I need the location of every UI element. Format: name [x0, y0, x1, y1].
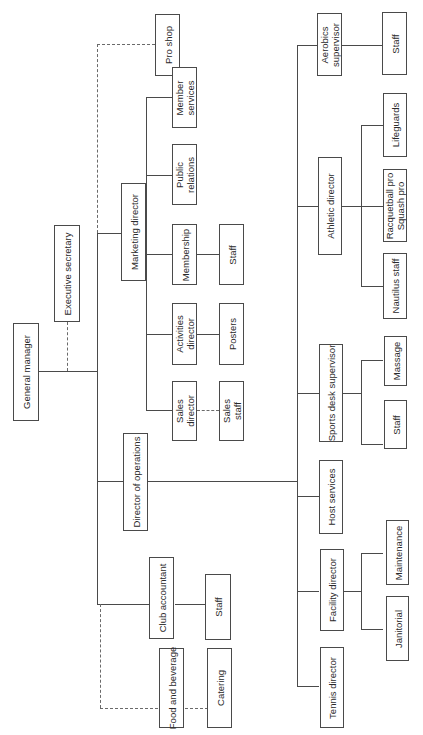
- connector: [146, 254, 172, 255]
- connector: [39, 371, 97, 372]
- node-posters: Posters: [219, 303, 244, 365]
- node-label: Catering: [214, 670, 225, 706]
- node-label: Maintenance: [392, 525, 403, 579]
- connector: [297, 206, 319, 207]
- node-club-accountant: Club accountant: [149, 557, 174, 639]
- node-label: Host services: [326, 468, 337, 525]
- node-label: Sports desk supervisor: [326, 345, 337, 442]
- node-director-of-operations: Director of operations: [123, 433, 148, 531]
- connector-dashed: [97, 44, 155, 45]
- node-membership: Membership: [172, 224, 197, 285]
- node-label: Food and beverage: [166, 647, 177, 729]
- connector: [341, 45, 383, 46]
- node-athletic-director: Athletic director: [318, 157, 342, 255]
- connector-dashed: [67, 322, 68, 371]
- connector: [361, 553, 362, 629]
- node-label: Salesstaff: [221, 399, 243, 423]
- node-aerobics-supervisor: Aerobicssupervisor: [317, 13, 342, 76]
- node-label: Activitiesdirector: [174, 315, 196, 352]
- node-janitorial: Janitorial: [386, 596, 409, 661]
- connector: [361, 629, 383, 630]
- node-host-services: Host services: [319, 460, 343, 534]
- connector: [146, 97, 172, 98]
- node-facility-director: Facility director: [320, 549, 344, 631]
- node-label: Lifeguards: [390, 103, 401, 147]
- node-label: Facility director: [327, 558, 338, 622]
- node-membership-staff: Staff: [219, 224, 244, 285]
- node-massage: Massage: [384, 336, 407, 386]
- node-maintenance: Maintenance: [386, 520, 409, 585]
- node-general-manager: General manager: [13, 323, 39, 421]
- node-label: Staff: [390, 415, 401, 434]
- connector: [297, 393, 319, 394]
- connector: [146, 410, 172, 411]
- connector: [197, 254, 219, 255]
- connector: [197, 334, 219, 335]
- connector: [361, 553, 383, 554]
- connector: [297, 45, 319, 46]
- node-public-relations: Publicrelations: [172, 144, 197, 205]
- node-aerobics-staff: Staff: [382, 12, 407, 75]
- node-tennis-director: Tennis director: [320, 647, 344, 728]
- node-sales-staff: Salesstaff: [219, 381, 244, 441]
- node-member-services: Memberservices: [172, 67, 197, 128]
- connector-dashed: [97, 44, 98, 233]
- node-sales-director: Salesdirector: [172, 381, 197, 441]
- node-label: Pro shop: [162, 26, 173, 64]
- node-label: Staff: [389, 34, 400, 53]
- connector: [97, 604, 149, 605]
- node-label: Janitorial: [392, 609, 403, 647]
- node-label: Executive secretary: [62, 232, 73, 315]
- node-activities-director: Activitiesdirector: [172, 303, 197, 365]
- connector: [361, 125, 383, 126]
- node-label: Racquetball proSquash pro: [384, 172, 406, 239]
- node-label: Memberservices: [174, 80, 196, 115]
- node-accountant-staff: Staff: [205, 574, 231, 640]
- connector: [97, 233, 98, 604]
- connector-dashed: [100, 604, 101, 708]
- connector: [146, 334, 172, 335]
- node-label: General manager: [21, 335, 32, 409]
- node-executive-secretary: Executive secretary: [54, 225, 80, 322]
- node-label: Marketing director: [128, 194, 139, 270]
- connector: [297, 686, 319, 687]
- connector: [341, 591, 361, 592]
- connector: [361, 360, 383, 361]
- node-catering: Catering: [207, 648, 232, 728]
- node-label: Staff: [213, 597, 224, 616]
- connector: [175, 604, 205, 605]
- node-label: Director of operations: [130, 437, 141, 528]
- node-label: Club accountant: [156, 564, 167, 633]
- node-label: Nautilus staff: [390, 259, 401, 314]
- connector-dashed: [197, 410, 219, 411]
- node-sports-desk-supervisor: Sports desk supervisor: [319, 344, 343, 442]
- connector: [361, 444, 383, 445]
- node-label: Membership: [179, 228, 190, 280]
- node-label: Aerobicssupervisor: [319, 23, 341, 67]
- connector: [361, 206, 383, 207]
- node-label: Salesdirector: [174, 395, 196, 427]
- connector: [361, 286, 383, 287]
- node-label: Tennis director: [327, 657, 338, 719]
- connector: [341, 393, 361, 394]
- node-label: Publicrelations: [174, 157, 196, 193]
- node-label: Posters: [226, 318, 237, 350]
- connector-dashed: [100, 708, 208, 709]
- connector: [297, 591, 319, 592]
- connector: [341, 206, 361, 207]
- node-label: Massage: [390, 342, 401, 381]
- node-label: Athletic director: [325, 173, 336, 238]
- node-sports-desk-staff: Staff: [384, 400, 407, 449]
- connector: [361, 360, 362, 444]
- node-lifeguards: Lifeguards: [383, 93, 407, 157]
- node-food-and-beverage: Food and beverage: [159, 648, 184, 728]
- connector: [97, 233, 121, 234]
- node-racquetball-squash-pro: Racquetball proSquash pro: [383, 169, 407, 242]
- node-nautilus-staff: Nautilus staff: [383, 253, 407, 319]
- node-label: Staff: [226, 245, 237, 264]
- connector: [297, 496, 319, 497]
- node-marketing-director: Marketing director: [121, 183, 146, 281]
- connector: [297, 45, 298, 686]
- connector: [146, 175, 172, 176]
